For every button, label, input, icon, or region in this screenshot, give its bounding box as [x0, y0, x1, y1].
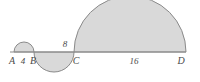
point-label-c: C	[73, 55, 80, 66]
point-label-a: A	[8, 55, 16, 66]
length-label-bc: 8	[63, 39, 68, 49]
point-label-d: D	[176, 55, 185, 66]
semicircle-cd	[74, 0, 186, 52]
length-label-cd: 16	[130, 56, 140, 66]
geometry-figure: A B C D 4 8 16	[0, 0, 200, 82]
point-label-b: B	[30, 55, 36, 66]
semicircle-bc	[34, 52, 74, 72]
semicircle-diagram-svg: A B C D 4 8 16	[0, 0, 200, 82]
semicircle-ab	[14, 42, 34, 52]
length-label-ab: 4	[21, 56, 26, 66]
